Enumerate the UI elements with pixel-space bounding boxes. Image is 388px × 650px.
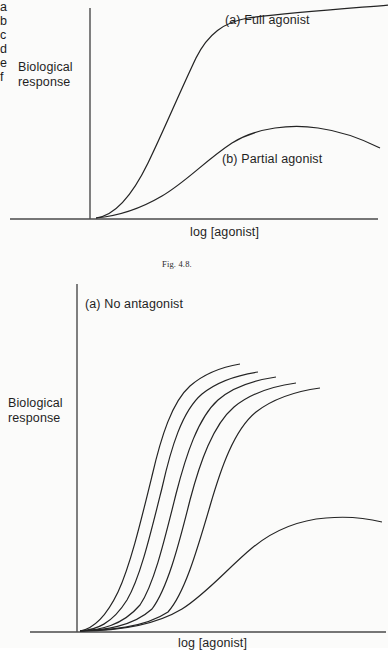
figure-caption: Fig. 4.8. bbox=[162, 259, 192, 269]
agonist-response-figure: Biologicalresponse log [agonist] (a) Ful… bbox=[0, 0, 388, 248]
curve-c bbox=[80, 377, 276, 631]
curve-label-partial-agonist: (b) Partial agonist bbox=[222, 152, 322, 166]
curve-label-full-agonist: (a) Full agonist bbox=[225, 13, 310, 27]
y-axis-label-line2: response bbox=[18, 75, 70, 89]
y-axis-label-bottom: Biologicalresponse bbox=[8, 396, 63, 425]
y-axis-label-line1: Biological bbox=[18, 60, 73, 74]
curve-d bbox=[80, 383, 296, 631]
curve-full-agonist bbox=[96, 5, 388, 218]
y-axis-label-bottom-line1: Biological bbox=[8, 396, 63, 410]
x-axis-label-bottom: log [agonist] bbox=[178, 636, 247, 650]
antagonist-shift-plot bbox=[0, 280, 388, 648]
antagonist-shift-figure: (a) No antagonist bbox=[0, 280, 388, 648]
panel-label-no-antagonist: (a) No antagonist bbox=[85, 297, 183, 311]
y-axis-label-bottom-line2: response bbox=[8, 411, 60, 425]
agonist-response-plot bbox=[0, 0, 388, 248]
curve-b bbox=[80, 372, 258, 631]
curve-partial-agonist bbox=[96, 126, 380, 218]
x-axis-label: log [agonist] bbox=[190, 225, 259, 239]
y-axis-label: Biologicalresponse bbox=[18, 60, 73, 89]
